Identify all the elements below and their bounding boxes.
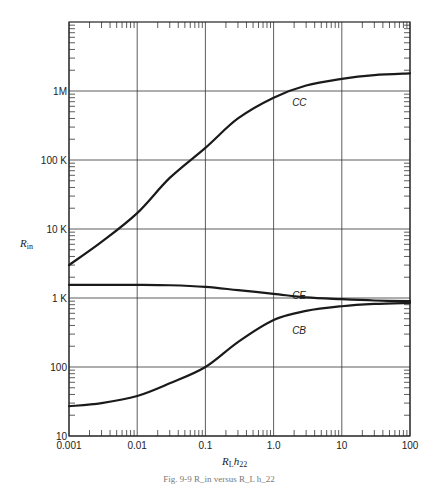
x-axis-label-sub2: 22 — [239, 460, 247, 469]
grid-lines — [69, 22, 410, 436]
y-tick-label: 1M — [53, 86, 67, 97]
curve-cb — [69, 303, 410, 406]
curve-ce — [69, 285, 410, 301]
x-tick-label: 10 — [336, 440, 348, 451]
tick-labels: 0.0010.010.11.010100101001 K10 K100 K1M — [41, 86, 419, 451]
curves — [69, 73, 410, 406]
x-tick-label: 0.01 — [127, 440, 147, 451]
figure-caption: Fig. 9-9 R_in versus R_L h_22 — [0, 474, 438, 484]
y-tick-label: 10 K — [46, 224, 67, 235]
y-axis-label: Rin — [19, 237, 33, 251]
curve-labels: CCCECB — [292, 97, 307, 336]
x-tick-label: 100 — [402, 440, 419, 451]
curve-cc — [69, 73, 410, 265]
y-tick-label: 100 K — [41, 155, 67, 166]
y-tick-label: 100 — [50, 362, 67, 373]
x-axis-label: RLh22 — [221, 455, 247, 469]
curve-label-cb: CB — [292, 325, 306, 336]
y-tick-label: 1 K — [52, 293, 67, 304]
curve-label-ce: CE — [292, 290, 306, 301]
x-tick-label: 0.1 — [198, 440, 212, 451]
x-tick-label: 1.0 — [267, 440, 281, 451]
curve-label-cc: CC — [292, 97, 307, 108]
y-tick-label: 10 — [56, 431, 68, 442]
y-axis-label-sub: in — [27, 242, 33, 251]
